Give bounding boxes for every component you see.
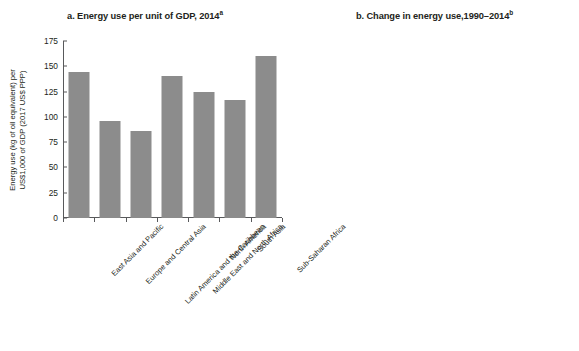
panel-a-y-tick-label: 125: [44, 87, 63, 97]
bar-slot: [94, 41, 125, 218]
panel-a-energy-use-per-gdp: a. Energy use per unit of GDP, 2014a Ene…: [0, 0, 290, 351]
panel-a-y-tick-label: 100: [44, 112, 63, 122]
panel-b-change-in-energy-use: b. Change in energy use,1990–2014b Chang…: [290, 0, 579, 351]
bar[interactable]: [131, 131, 152, 218]
bar-slot: [251, 41, 282, 218]
bar[interactable]: [225, 100, 246, 218]
panel-a-y-axis-title-line-2: US$1,000 of GDP (2017 US$ PPP): [18, 32, 28, 228]
panel-b-title-text: b. Change in energy use,1990–2014: [356, 11, 509, 21]
panel-a-x-tick-mark: [94, 218, 95, 222]
panel-a-title-superscript: a: [219, 9, 222, 16]
panel-a-x-tick-mark: [188, 218, 189, 222]
panel-a-y-tick-mark: [63, 116, 67, 117]
bar-slot: [63, 41, 94, 218]
panel-a-y-tick-mark: [63, 192, 67, 193]
bar[interactable]: [256, 56, 277, 218]
panel-b-title: b. Change in energy use,1990–2014b: [290, 9, 579, 21]
bar[interactable]: [68, 72, 89, 218]
panel-a-y-tick-mark: [63, 167, 67, 168]
bar[interactable]: [99, 121, 120, 218]
panel-a-plot-area: East Asia and PacificEurope and Central …: [63, 41, 282, 218]
panel-a-x-tick-mark: [126, 218, 127, 222]
panel-a-title: a. Energy use per unit of GDP, 2014a: [0, 9, 290, 21]
bar[interactable]: [193, 92, 214, 218]
bar-slot: [157, 41, 188, 218]
panel-a-x-tick-mark: [63, 218, 64, 222]
panel-a-y-tick-label: 175: [44, 36, 63, 46]
bar-slot: [126, 41, 157, 218]
panel-a-x-tick-mark: [251, 218, 252, 222]
bar[interactable]: [162, 76, 183, 218]
panel-a-y-axis-title-line-1: Energy use (kg of oil equivalent) per: [8, 32, 18, 228]
panel-a-x-tick-mark: [219, 218, 220, 222]
panel-a-y-tick-label: 75: [49, 137, 63, 147]
panel-a-title-text: a. Energy use per unit of GDP, 2014: [67, 11, 219, 21]
panel-a-x-tick-mark: [157, 218, 158, 222]
bar-slot: [219, 41, 250, 218]
panel-a-y-tick-mark: [63, 142, 67, 143]
panel-a-y-tick-mark: [63, 66, 67, 67]
bar-slot: [188, 41, 219, 218]
panel-a-y-axis-title: Energy use (kg of oil equivalent) per US…: [8, 32, 27, 228]
panel-b-title-superscript: b: [509, 9, 513, 16]
panel-a-y-tick-label: 25: [49, 188, 63, 198]
panel-a-bar-group: [63, 41, 282, 218]
panel-a-y-tick-mark: [63, 91, 67, 92]
panel-a-y-tick-mark: [63, 41, 67, 42]
panel-a-x-tick-mark: [282, 218, 283, 222]
figure-two-panel-bar-charts: a. Energy use per unit of GDP, 2014a Ene…: [0, 0, 579, 351]
panel-a-y-tick-label: 0: [53, 213, 63, 223]
panel-a-y-tick-label: 150: [44, 61, 63, 71]
panel-a-y-tick-label: 50: [49, 162, 63, 172]
